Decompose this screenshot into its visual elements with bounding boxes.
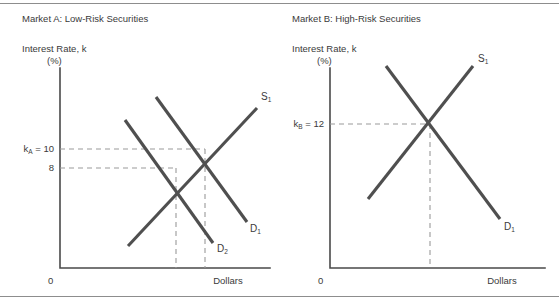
panel-b-demand1-label: D1 — [504, 221, 515, 233]
panel-b-y-axis-unit: (%) — [317, 55, 332, 66]
panel-a-tick-10-value: = 10 — [33, 143, 54, 154]
diagram-canvas: Market A: Low-Risk Securities Interest R… — [0, 0, 559, 305]
panel-market-b: Market B: High-Risk Securities Interest … — [292, 13, 545, 286]
panel-a-supply-curve — [128, 108, 257, 246]
panel-a-x-axis-title: Dollars — [213, 275, 243, 286]
svg-text:kA = 10: kA = 10 — [24, 143, 55, 155]
panel-b-tick-12-value: = 12 — [303, 118, 324, 129]
figure-container: Market A: Low-Risk Securities Interest R… — [0, 0, 559, 305]
panel-b-supply-curve — [368, 66, 473, 199]
panel-a-y-axis-unit: (%) — [47, 55, 62, 66]
panel-b-supply-label: S1 — [478, 53, 489, 65]
panel-a-demand1-label: D1 — [250, 223, 261, 235]
panel-a-tick-8: 8 — [49, 162, 54, 173]
panel-a-demand2-label: D2 — [217, 243, 228, 255]
panel-b-tick-12: kB = 12 — [294, 118, 325, 130]
panel-market-a: Market A: Low-Risk Securities Interest R… — [22, 13, 272, 286]
panel-b-demand1-curve — [386, 66, 500, 219]
panel-a-supply-label: S1 — [261, 91, 272, 103]
panel-a-origin-label: 0 — [48, 275, 53, 286]
panel-a-demand2-curve — [125, 120, 213, 243]
panel-a-title: Market A: Low-Risk Securities — [22, 13, 148, 24]
panel-b-title: Market B: High-Risk Securities — [292, 13, 421, 24]
panel-b-x-axis-title: Dollars — [487, 275, 517, 286]
panel-a-tick-10: kA = 10 — [24, 143, 55, 155]
svg-text:kB = 12: kB = 12 — [294, 118, 325, 130]
panel-b-axes — [330, 68, 545, 268]
panel-a-y-axis-title: Interest Rate, k — [22, 43, 87, 54]
panel-b-y-axis-title: Interest Rate, k — [292, 43, 357, 54]
panel-b-origin-label: 0 — [318, 275, 323, 286]
